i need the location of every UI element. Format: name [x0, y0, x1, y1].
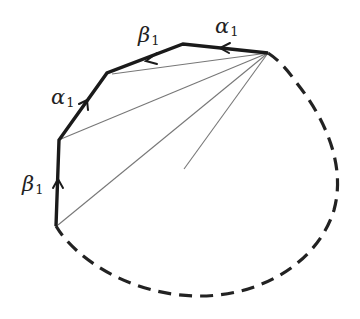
diagonals — [58, 53, 268, 225]
edge-label-alpha-top: α1 — [215, 14, 238, 39]
edge-label-alpha-left: α1 — [51, 85, 74, 110]
diagonal-to-v4 — [58, 53, 268, 225]
svg-text:β1: β1 — [21, 172, 43, 197]
svg-text:α1: α1 — [215, 14, 238, 39]
edge-label-beta-left: β1 — [21, 172, 43, 197]
polygon-diagram: α1 β1 α1 β1 — [0, 0, 360, 319]
arrowheads — [53, 43, 230, 188]
svg-text:α1: α1 — [51, 85, 74, 110]
svg-text:β1: β1 — [137, 23, 159, 48]
edge-label-beta-top: β1 — [137, 23, 159, 48]
bold-boundary-path — [56, 44, 268, 226]
dashed-boundary-curve — [56, 53, 338, 296]
